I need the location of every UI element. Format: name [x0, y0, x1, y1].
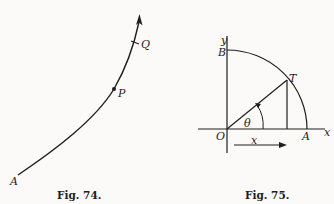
label-theta: θ [244, 117, 251, 130]
angle-arc [257, 105, 263, 129]
figure-74: Q P A Fig. 74. [9, 14, 150, 201]
caption-fig-74: Fig. 74. [57, 189, 101, 201]
quarter-arc [227, 50, 307, 129]
label-x-arrow: x [251, 134, 258, 147]
label-p: P [117, 87, 126, 100]
label-q: Q [141, 38, 150, 51]
label-a: A [9, 175, 18, 188]
label-t: T [289, 72, 298, 85]
label-b: B [217, 46, 226, 59]
label-a: A [301, 130, 310, 143]
label-x-axis: x [324, 126, 331, 139]
caption-fig-75: Fig. 75. [245, 189, 289, 201]
point-p [112, 87, 116, 91]
x-arrowhead-icon [279, 142, 287, 148]
figures-canvas: Q P A Fig. 74. y B T θ O x A x Fig. 75. [0, 0, 334, 204]
tick-q [131, 41, 139, 44]
figure-75: y B T θ O x A x Fig. 75. [198, 34, 331, 201]
label-o: O [216, 130, 225, 143]
